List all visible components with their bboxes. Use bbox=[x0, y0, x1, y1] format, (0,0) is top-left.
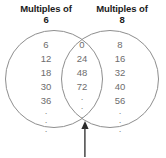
value-item: 16 bbox=[104, 52, 136, 66]
value-item: 6 bbox=[30, 38, 62, 52]
intersection-ellipsis: · · · bbox=[66, 94, 98, 121]
ellipsis-dot: · bbox=[66, 112, 98, 121]
right-only-ellipsis: · · · bbox=[104, 108, 136, 135]
value-item: 24 bbox=[66, 52, 98, 66]
left-only-ellipsis: · · · bbox=[30, 108, 62, 135]
intersection-region-values: 0 24 48 72 · · · bbox=[66, 38, 98, 121]
right-set-title: Multiples of 8 bbox=[84, 3, 160, 25]
value-item: 32 bbox=[104, 66, 136, 80]
venn-diagram-figure: Multiples of 6 Multiples of 8 6 12 18 30… bbox=[0, 0, 166, 158]
value-item: 40 bbox=[104, 80, 136, 94]
value-item: 0 bbox=[66, 38, 98, 52]
value-item: 18 bbox=[30, 66, 62, 80]
right-set-title-line2: 8 bbox=[84, 14, 160, 25]
left-only-region-values: 6 12 18 30 36 · · · bbox=[30, 38, 62, 135]
ellipsis-dot: · bbox=[104, 126, 136, 135]
value-item: 56 bbox=[104, 94, 136, 108]
value-item: 12 bbox=[30, 52, 62, 66]
value-item: 36 bbox=[30, 94, 62, 108]
up-arrow-icon bbox=[80, 121, 90, 157]
value-item: 72 bbox=[66, 80, 98, 94]
right-only-region-values: 8 16 32 40 56 · · · bbox=[104, 38, 136, 135]
left-set-title-line2: 6 bbox=[8, 14, 84, 25]
right-set-title-line1: Multiples of bbox=[96, 3, 148, 14]
left-set-title: Multiples of 6 bbox=[8, 3, 84, 25]
value-item: 30 bbox=[30, 80, 62, 94]
ellipsis-dot: · bbox=[30, 126, 62, 135]
value-item: 48 bbox=[66, 66, 98, 80]
value-item: 8 bbox=[104, 38, 136, 52]
left-set-title-line1: Multiples of bbox=[20, 3, 72, 14]
